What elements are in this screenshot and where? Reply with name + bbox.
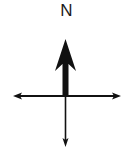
south-axis — [63, 96, 69, 147]
compass-rose-icon — [0, 0, 131, 150]
north-arrow — [55, 39, 76, 97]
